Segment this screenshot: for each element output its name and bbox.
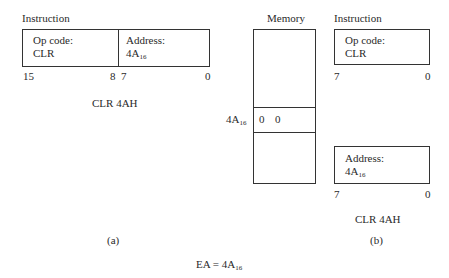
memory-cell-value-2: 0 xyxy=(275,113,281,125)
panel-b-caption: CLR 4AH xyxy=(355,213,401,225)
memory-row-bottom-border xyxy=(253,132,316,133)
panel-b-bottom-bit-low: 0 xyxy=(425,188,431,200)
panel-a-bit-15: 15 xyxy=(23,70,34,82)
memory-row-address: 4A16 xyxy=(226,113,246,127)
panel-a-bit-8: 8 xyxy=(110,70,116,82)
panel-a-label: (a) xyxy=(107,234,119,246)
panel-b-top-bit-high: 7 xyxy=(334,70,340,82)
panel-a-bit-0: 0 xyxy=(205,70,211,82)
panel-a-address-value: 4A16 xyxy=(126,47,165,64)
panel-a-field-divider xyxy=(118,29,119,67)
panel-b-opcode-label: Op code: xyxy=(345,34,385,47)
panel-b-label: (b) xyxy=(370,234,383,246)
memory-row-top-border xyxy=(253,107,316,108)
panel-b-address-label: Address: xyxy=(345,152,384,165)
memory-title: Memory xyxy=(267,12,305,24)
panel-a-opcode-value: CLR xyxy=(33,47,73,60)
panel-a-address-field: Address: 4A16 xyxy=(126,34,165,64)
panel-b-address-field: Address: 4A16 xyxy=(345,152,384,182)
panel-a-caption: CLR 4AH xyxy=(92,97,138,109)
panel-b-opcode-value: CLR xyxy=(345,47,385,60)
panel-a-address-label: Address: xyxy=(126,34,165,47)
panel-a-title: Instruction xyxy=(22,12,70,24)
memory-cell-value-1: 0 xyxy=(259,113,265,125)
panel-b-opcode-field: Op code: CLR xyxy=(345,34,385,60)
panel-b-address-value: 4A16 xyxy=(345,165,384,182)
panel-a-opcode-label: Op code: xyxy=(33,34,73,47)
panel-b-bottom-bit-high: 7 xyxy=(334,188,340,200)
panel-b-top-bit-low: 0 xyxy=(425,70,431,82)
effective-address-equation: EA = 4A16 xyxy=(196,258,242,272)
panel-a-opcode-field: Op code: CLR xyxy=(33,34,73,60)
panel-b-title: Instruction xyxy=(334,12,382,24)
panel-a-bit-7: 7 xyxy=(121,70,127,82)
